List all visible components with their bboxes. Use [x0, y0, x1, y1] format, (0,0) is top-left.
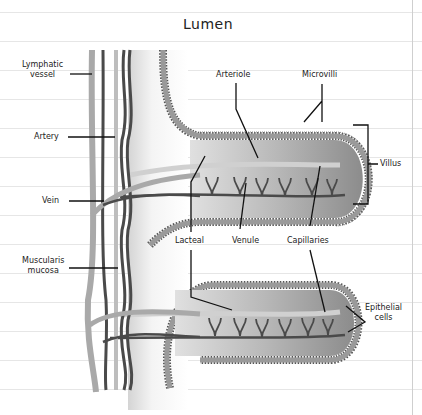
label-vein: Vein — [42, 196, 59, 206]
label-line: vessel — [22, 70, 63, 80]
label-line: Epithelial — [365, 303, 402, 313]
lumen-title: Lumen — [183, 16, 233, 32]
label-arteriole: Arteriole — [216, 70, 250, 80]
label-microvilli: Microvilli — [302, 70, 337, 80]
label-line: mucosa — [22, 266, 64, 276]
label-artery: Artery — [34, 132, 59, 142]
label-lymphatic-vessel: Lymphatic vessel — [22, 60, 63, 80]
label-capillaries: Capillaries — [287, 236, 329, 246]
leader-microvilli — [304, 84, 322, 122]
label-villus: Villus — [380, 159, 401, 169]
label-line: cells — [365, 313, 402, 323]
label-epithelial-cells: Epithelial cells — [365, 303, 402, 323]
label-muscularis-mucosa: Muscularis mucosa — [22, 256, 64, 276]
label-line: Muscularis — [22, 256, 64, 266]
label-line: Lymphatic — [22, 60, 63, 70]
label-lacteal: Lacteal — [175, 236, 204, 246]
label-venule: Venule — [232, 236, 259, 246]
villus-diagram — [0, 0, 422, 415]
